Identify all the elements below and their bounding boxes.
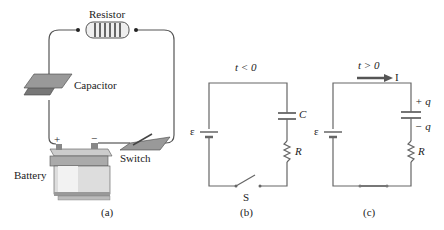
- battery-component: [50, 143, 112, 200]
- time-label-c: t > 0: [358, 60, 379, 71]
- caption-a: (a): [101, 207, 113, 218]
- current-label: I: [395, 72, 399, 83]
- capacitor-plates: [24, 74, 72, 95]
- minus-q-label: − q: [415, 121, 431, 132]
- plus-terminal-label: +: [54, 134, 60, 145]
- emf-label-c: ε: [314, 126, 319, 137]
- panel-c-circuit: [324, 83, 421, 186]
- battery-label: Battery: [14, 170, 46, 181]
- current-arrow: [357, 74, 393, 82]
- caption-b: (b): [240, 207, 253, 218]
- switch-label-b: S: [243, 192, 249, 203]
- capacitor-label-b: C: [299, 109, 306, 120]
- plus-q-label: + q: [415, 96, 431, 107]
- capacitor-label: Capacitor: [74, 80, 117, 91]
- resistor-label-b: R: [295, 146, 302, 157]
- switch-component: [120, 134, 170, 150]
- resistor-label: Resistor: [89, 9, 125, 20]
- switch-label: Switch: [120, 153, 151, 164]
- minus-terminal-label: −: [91, 133, 97, 144]
- caption-c: (c): [363, 207, 375, 218]
- resistor-label-c: R: [418, 146, 425, 157]
- time-label-b: t < 0: [235, 62, 256, 73]
- circuit-diagram: [0, 0, 444, 230]
- panel-b-circuit: [200, 83, 296, 186]
- emf-label-b: ε: [190, 126, 195, 137]
- resistor-component: [76, 22, 138, 38]
